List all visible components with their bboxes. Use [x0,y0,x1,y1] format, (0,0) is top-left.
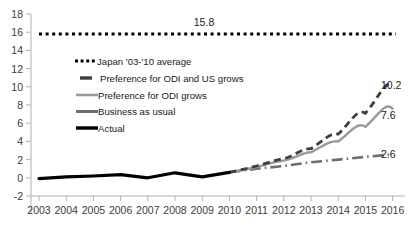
x-tick-label-2016: 2016 [381,204,405,216]
x-tick-label-2015: 2015 [354,204,378,216]
x-tick-label-2007: 2007 [136,204,160,216]
x-tick-label-2010: 2010 [218,204,242,216]
legend-label-odi-grows: Preference for ODI grows [98,90,207,101]
x-tick-label-2004: 2004 [55,204,79,216]
x-tick-label-2012: 2012 [272,204,296,216]
x-tick-label-2013: 2013 [299,204,323,216]
chart-container: 18 16 14 12 10 8 6 4 2 0 -2 [0,0,414,232]
x-tick-label-2014: 2014 [327,204,351,216]
legend-label-japan-average: Japan '03-'10 average [97,56,191,67]
y-tick-label-neg2: -2 [14,190,23,202]
annotation-business-end-value: 2.6 [381,148,396,160]
line-chart: 18 16 14 12 10 8 6 4 2 0 -2 [0,0,414,232]
annotation-odi-end-value: 7.6 [381,109,396,121]
x-tick-label-2008: 2008 [163,204,187,216]
y-tick-label-4: 4 [17,135,23,147]
x-tick-label-2006: 2006 [109,204,133,216]
legend-label-odi-and-us-grows: Preference for ODI and US grows [100,73,244,84]
annotation-japan-average-value: 15.8 [194,16,215,28]
legend-label-business-as-usual: Business as usual [98,106,175,117]
y-tick-label-6: 6 [17,117,23,129]
y-tick-label-16: 16 [11,26,23,38]
annotation-odi-and-us-end-value: 10.2 [381,79,402,91]
y-tick-label-14: 14 [11,44,23,56]
x-tick-label-2003: 2003 [27,204,51,216]
y-tick-label-8: 8 [17,99,23,111]
legend-label-actual: Actual [98,123,125,134]
x-tick-label-2011: 2011 [245,204,268,216]
y-tick-label-18: 18 [11,8,23,20]
y-tick-label-0: 0 [17,172,23,184]
legend-item-odi-and-us-grows[interactable]: Preference for ODI and US grows [80,73,244,84]
y-tick-label-2: 2 [17,154,23,166]
x-tick-label-2005: 2005 [82,204,106,216]
y-tick-label-12: 12 [11,63,23,75]
y-tick-label-10: 10 [11,81,23,93]
x-tick-label-2009: 2009 [191,204,215,216]
